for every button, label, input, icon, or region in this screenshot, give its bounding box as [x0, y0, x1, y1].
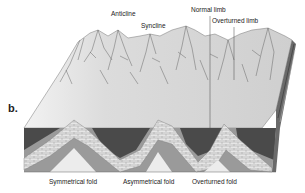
label-symmetrical-fold: Symmetrical fold	[49, 179, 97, 186]
label-overturned-limb: Overturned limb	[212, 18, 258, 25]
label-syncline: Syncline	[141, 23, 166, 30]
label-overturned-fold: Overturned fold	[192, 179, 237, 186]
mountain-surface	[24, 26, 292, 128]
label-anticline: Anticline	[111, 11, 136, 18]
label-asymmetrical-fold: Asymmetrical fold	[123, 179, 174, 186]
panel-label: b.	[8, 103, 18, 114]
label-normal-limb: Normal limb	[191, 7, 226, 14]
